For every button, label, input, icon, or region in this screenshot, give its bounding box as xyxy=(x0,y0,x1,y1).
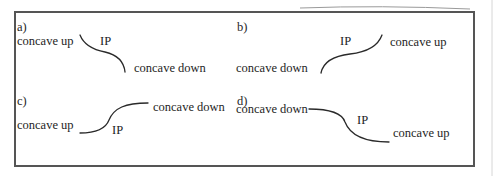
panel-d: d) concave down IP concave up xyxy=(236,94,450,142)
panel-d-left-text: concave down xyxy=(236,102,309,116)
panel-c-ip-label: IP xyxy=(112,123,123,137)
top-smudge-line xyxy=(300,7,470,9)
panel-a-ip-label: IP xyxy=(100,34,111,48)
panel-a: a) concave up IP concave down xyxy=(17,20,207,75)
inflection-point-diagram: a) concave up IP concave down b) IP conc… xyxy=(0,0,493,176)
panel-b-label: b) xyxy=(237,20,247,34)
panel-b-curve xyxy=(321,35,382,73)
panel-b-right-text: concave up xyxy=(390,35,447,49)
panel-d-curve xyxy=(309,109,389,142)
panel-b: b) IP concave up concave down xyxy=(236,20,447,75)
panel-a-label: a) xyxy=(17,20,27,34)
panel-d-ip-label: IP xyxy=(357,113,368,127)
panel-d-right-text: concave up xyxy=(393,126,450,140)
panel-b-ip-label: IP xyxy=(340,34,351,48)
panel-c: c) concave down concave up IP xyxy=(17,94,226,137)
panel-c-label: c) xyxy=(17,94,27,108)
panel-c-right-text: concave down xyxy=(153,100,226,114)
panel-b-left-text: concave down xyxy=(236,61,309,75)
panel-c-left-text: concave up xyxy=(17,118,74,132)
panel-a-left-text: concave up xyxy=(17,34,74,48)
panel-a-right-text: concave down xyxy=(134,61,207,75)
